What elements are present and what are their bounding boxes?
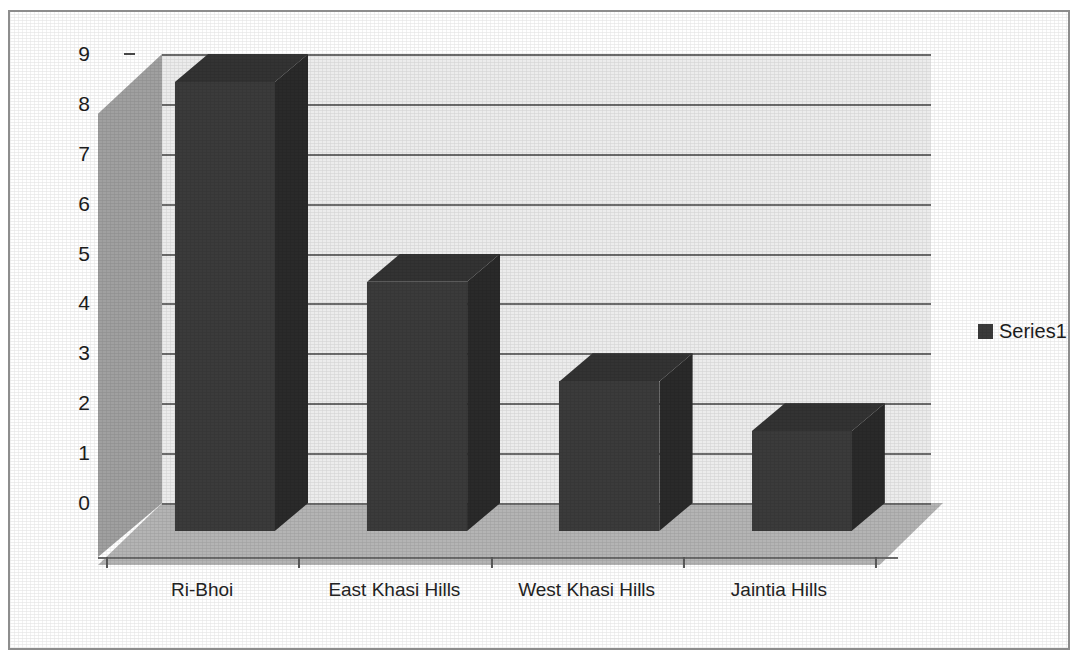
x-tick-label-east-khasi-hills: East Khasi Hills	[328, 579, 460, 601]
bar-east-khasi-hills	[367, 254, 500, 532]
bar-front-face	[175, 82, 275, 531]
y-axis: 0123456789	[46, 46, 90, 571]
bar-jaintia-hills	[752, 403, 885, 531]
bar-front-wrap	[752, 431, 852, 531]
bar-front-face	[752, 431, 852, 531]
y-tick-label-3: 3	[64, 341, 90, 365]
y-tick-label-4: 4	[64, 291, 90, 315]
bar-front-face	[367, 282, 467, 531]
x-axis: Ri-BhoiEast Khasi HillsWest Khasi HillsJ…	[98, 557, 943, 617]
bar-west-khasi-hills	[559, 353, 692, 531]
y-tick-label-1: 1	[64, 441, 90, 465]
x-tick-label-jaintia-hills: Jaintia Hills	[731, 579, 827, 601]
plot-side-wall	[98, 54, 162, 557]
bar-front-wrap	[367, 282, 467, 531]
x-tick-mark-0	[106, 557, 108, 568]
y-tick-label-9: 9	[64, 42, 90, 66]
x-tick-mark-3	[683, 557, 685, 568]
x-tick-label-ri-bhoi: Ri-Bhoi	[171, 579, 233, 601]
bar-front-wrap	[175, 82, 275, 531]
bar-front-wrap	[559, 381, 659, 531]
plot-area	[98, 46, 943, 571]
bar-side-face	[275, 54, 308, 531]
x-tick-label-west-khasi-hills: West Khasi Hills	[518, 579, 655, 601]
bar-side-face	[467, 254, 500, 532]
bar-front-face	[559, 381, 659, 531]
x-tick-mark-end	[875, 557, 877, 568]
y-tick-label-5: 5	[64, 242, 90, 266]
chart-frame: 0123456789 Ri-BhoiEast Khasi HillsWest K…	[8, 10, 1070, 650]
x-axis-line	[98, 557, 898, 559]
y-tick-label-6: 6	[64, 192, 90, 216]
x-tick-mark-1	[298, 557, 300, 568]
x-tick-mark-2	[491, 557, 493, 568]
legend-label-series1: Series1	[999, 320, 1067, 343]
legend-swatch-series1	[978, 324, 993, 339]
bar-side-face	[659, 353, 692, 531]
y-tick-label-8: 8	[64, 92, 90, 116]
legend: Series1	[978, 320, 1067, 343]
y-tick-label-0: 0	[64, 491, 90, 515]
y-tick-label-2: 2	[64, 391, 90, 415]
bar-ri-bhoi	[175, 54, 308, 531]
y-tick-label-7: 7	[64, 142, 90, 166]
